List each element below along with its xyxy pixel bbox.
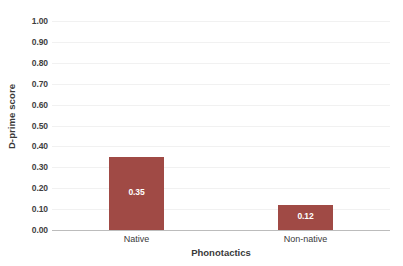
x-axis-category-label: Non-native bbox=[246, 234, 366, 244]
gridline bbox=[52, 21, 390, 22]
gridline bbox=[52, 188, 390, 189]
y-axis-tick-label: 0.00 bbox=[32, 225, 48, 235]
bar-value-label: 0.12 bbox=[278, 211, 333, 221]
y-axis-tick-label: 0.50 bbox=[32, 121, 48, 131]
bar[interactable]: 0.35 bbox=[109, 157, 164, 230]
y-axis-tick-label: 0.30 bbox=[32, 162, 48, 172]
bar-chart: D-prime score 1.000.900.800.700.600.500.… bbox=[0, 0, 403, 266]
gridline bbox=[52, 84, 390, 85]
y-axis-tick-label: 0.70 bbox=[32, 79, 48, 89]
y-axis-tick-label: 0.80 bbox=[32, 58, 48, 68]
gridline bbox=[52, 42, 390, 43]
gridline bbox=[52, 209, 390, 210]
plot-area: 0.350.12 bbox=[52, 21, 390, 230]
y-axis-tick-label: 0.90 bbox=[32, 37, 48, 47]
y-axis-tick-label: 0.10 bbox=[32, 204, 48, 214]
gridline bbox=[52, 63, 390, 64]
x-axis-title: Phonotactics bbox=[52, 247, 390, 258]
gridline bbox=[52, 146, 390, 147]
y-axis-tick-label: 0.40 bbox=[32, 141, 48, 151]
y-axis-tick-label: 0.20 bbox=[32, 183, 48, 193]
gridline bbox=[52, 126, 390, 127]
gridline bbox=[52, 105, 390, 106]
y-axis-tick-labels: 1.000.900.800.700.600.500.400.300.200.10… bbox=[22, 21, 52, 230]
y-axis-title-text: D-prime score bbox=[7, 83, 18, 148]
x-axis-category-label: Native bbox=[77, 234, 197, 244]
x-axis-line bbox=[52, 230, 390, 231]
y-axis-title: D-prime score bbox=[0, 0, 24, 232]
bar-value-label: 0.35 bbox=[109, 187, 164, 197]
bar[interactable]: 0.12 bbox=[278, 205, 333, 230]
gridline bbox=[52, 167, 390, 168]
y-axis-tick-label: 0.60 bbox=[32, 100, 48, 110]
y-axis-tick-label: 1.00 bbox=[32, 16, 48, 26]
